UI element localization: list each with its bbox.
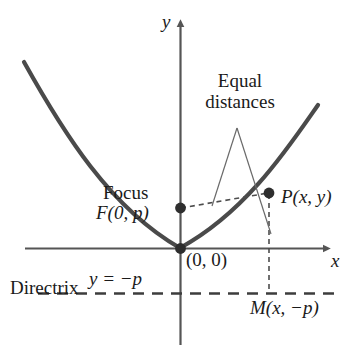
equal-distances-pointer-right — [237, 128, 271, 234]
equal-distances-line2: distances — [188, 91, 292, 112]
directrix-word-label: Directrix — [10, 277, 79, 298]
focus-dot — [175, 203, 186, 214]
origin-dot — [175, 243, 186, 254]
focus-word-label: Focus — [103, 182, 148, 203]
point-m-label: M(x, −p) — [250, 297, 319, 318]
equal-distances-pointer-left — [212, 128, 237, 206]
point-p-dot — [264, 188, 275, 199]
directrix-equation-label: y = −p — [88, 268, 143, 289]
x-axis-label: x — [331, 250, 339, 271]
equal-distances-label: Equal distances — [188, 70, 292, 113]
parabola-diagram: Equal distances Focus F(0, p) P(x, y) (0… — [0, 0, 351, 363]
origin-label: (0, 0) — [186, 249, 227, 270]
focus-point-label: F(0, p) — [96, 202, 149, 223]
y-axis-label: y — [162, 11, 170, 32]
focal-radius-segment — [181, 193, 268, 208]
equal-distances-line1: Equal — [188, 70, 292, 91]
point-p-label: P(x, y) — [281, 186, 332, 207]
